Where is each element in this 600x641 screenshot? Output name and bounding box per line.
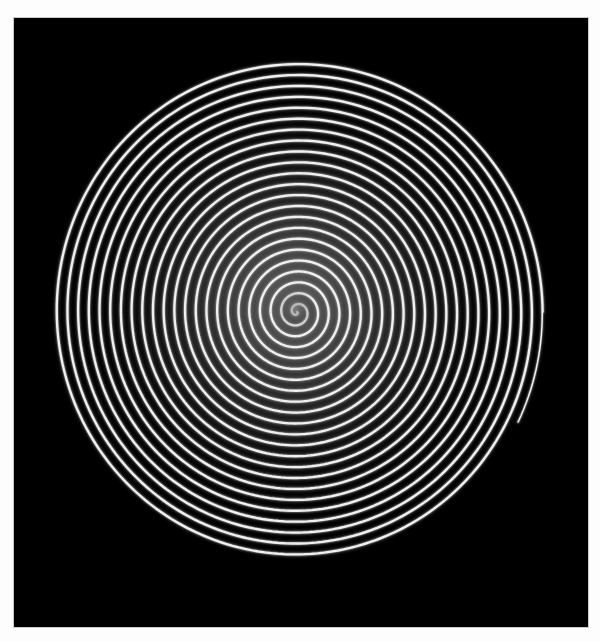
artwork-root: Double Archimedean Spiral: [0, 0, 600, 641]
core-glow: [219, 232, 375, 392]
spiral-graphic: [14, 18, 588, 627]
spiral-canvas: [14, 18, 588, 627]
